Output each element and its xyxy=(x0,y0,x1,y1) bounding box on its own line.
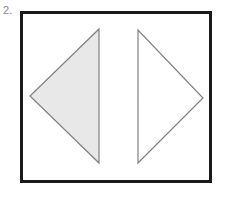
item-number-label: 2. xyxy=(3,4,13,16)
figure-container: 2. xyxy=(0,0,229,199)
bounding-box xyxy=(20,11,212,183)
